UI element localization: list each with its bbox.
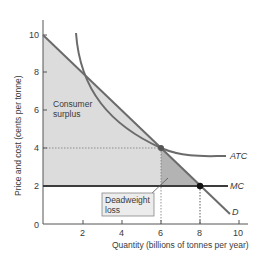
- consumer-surplus-label-1: Consumer: [53, 99, 92, 109]
- y-tick-0: 0: [34, 220, 39, 230]
- mc-label: MC: [230, 181, 244, 191]
- x-tick-2: 2: [80, 228, 85, 238]
- y-tick-10: 10: [29, 30, 39, 40]
- atc-label: ATC: [229, 151, 248, 161]
- y-axis-title: Price and cost (cents per tonne): [13, 75, 23, 196]
- chart: 10 8 6 4 2 0 2 4 6 8 10 Price and cost (…: [0, 0, 263, 256]
- x-axis-title: Quantity (billions of tonnes per year): [112, 240, 249, 250]
- y-tick-4: 4: [34, 143, 39, 153]
- x-tick-6: 6: [158, 228, 163, 238]
- y-tick-2: 2: [34, 181, 39, 191]
- y-tick-6: 6: [34, 105, 39, 115]
- mc-demand-point: [197, 183, 203, 189]
- y-tick-8: 8: [34, 67, 39, 77]
- atc-demand-point: [158, 145, 164, 151]
- x-ticks: [83, 220, 239, 224]
- x-tick-4: 4: [119, 228, 124, 238]
- consumer-surplus-label-2: surplus: [53, 109, 80, 119]
- x-tick-8: 8: [197, 228, 202, 238]
- demand-label: D: [232, 207, 239, 217]
- deadweight-loss-label-2: loss: [105, 205, 120, 215]
- deadweight-loss-label-1: Deadweight: [105, 195, 151, 205]
- x-tick-10: 10: [233, 228, 243, 238]
